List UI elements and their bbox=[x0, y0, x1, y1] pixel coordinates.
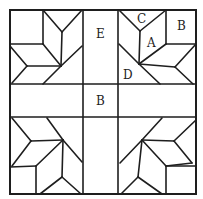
quilt-block-diagram: C B A E D B bbox=[0, 0, 203, 199]
piece-seam-line bbox=[62, 140, 63, 177]
label-c: C bbox=[137, 12, 146, 26]
label-b-corner: B bbox=[177, 19, 186, 33]
piece-seam-line bbox=[139, 31, 140, 64]
piece-seam-line bbox=[10, 166, 36, 167]
label-b-center: B bbox=[96, 94, 105, 108]
label-d: D bbox=[123, 68, 133, 82]
label-a: A bbox=[146, 36, 156, 50]
piece-seam-line bbox=[61, 32, 62, 66]
piece-seam-line bbox=[142, 140, 174, 141]
piece-seam-line bbox=[31, 140, 63, 141]
label-e: E bbox=[96, 27, 105, 41]
